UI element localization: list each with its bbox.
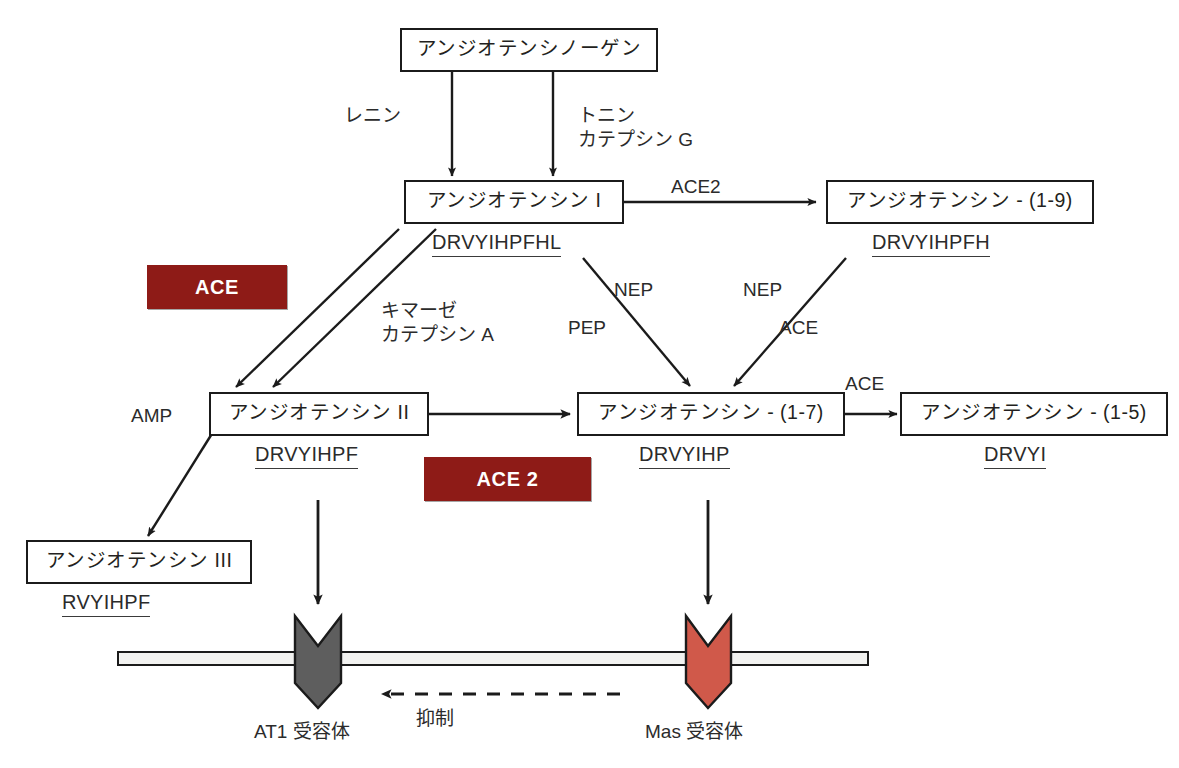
node-angiotensin-1-7-label: アンジオテンシン - (1-7) (598, 403, 824, 423)
label-ace-to-ang1-5: ACE (845, 372, 884, 396)
label-amp: AMP (131, 404, 172, 428)
node-angiotensin-1[interactable]: アンジオテンシン I (404, 180, 624, 224)
sequence-angiotensin-3: RVYIHPF (62, 591, 150, 617)
sequence-angiotensin-1: DRVYIHPFHL (432, 231, 561, 257)
chip-ace2[interactable]: ACE 2 (424, 457, 591, 501)
sequence-angiotensin-1-5: DRVYI (984, 443, 1046, 469)
chip-ace2-label: ACE 2 (477, 468, 539, 491)
node-angiotensin-1-label: アンジオテンシン I (427, 191, 602, 211)
sequence-angiotensin-1-7: DRVYIHP (639, 443, 730, 469)
node-angiotensinogen-label: アンジオテンシノーゲン (417, 39, 642, 59)
label-nep-left: NEP (614, 278, 653, 302)
arrow-amp-to-ang3 (148, 432, 213, 536)
label-renin: レニン (344, 104, 401, 128)
node-angiotensin-1-9-label: アンジオテンシン - (1-9) (847, 191, 1073, 211)
node-angiotensin-1-5-label: アンジオテンシン - (1-5) (921, 403, 1147, 423)
cell-membrane (117, 651, 869, 666)
label-chymase: キマーゼ (381, 299, 494, 323)
label-ace-right: ACE (779, 316, 818, 340)
label-tonin: トニン (578, 104, 693, 128)
label-cathepsin-a: カテプシン A (381, 323, 494, 347)
node-angiotensin-3-label: アンジオテンシン III (46, 551, 233, 571)
chip-ace[interactable]: ACE (147, 265, 287, 309)
sequence-angiotensin-1-9: DRVYIHPFH (872, 231, 990, 257)
node-angiotensin-1-9[interactable]: アンジオテンシン - (1-9) (826, 180, 1094, 224)
node-angiotensin-2[interactable]: アンジオテンシン II (209, 392, 429, 436)
label-tonin-cathepsin-g: トニン カテプシン G (578, 104, 693, 153)
label-at1-receptor: AT1 受容体 (254, 716, 350, 743)
label-cathepsin-g: カテプシン G (578, 128, 693, 152)
label-chymase-cathepsin-a: キマーゼ カテプシン A (381, 299, 494, 348)
label-inhibition: 抑制 (416, 703, 454, 730)
sequence-angiotensin-2: DRVYIHPF (255, 443, 358, 469)
node-angiotensinogen[interactable]: アンジオテンシノーゲン (400, 28, 658, 72)
label-mas-receptor: Mas 受容体 (645, 716, 743, 743)
node-angiotensin-3[interactable]: アンジオテンシン III (26, 540, 252, 584)
pathway-diagram-canvas: アンジオテンシノーゲン アンジオテンシン I DRVYIHPFHL アンジオテン… (0, 0, 1179, 768)
node-angiotensin-1-5[interactable]: アンジオテンシン - (1-5) (900, 392, 1168, 436)
node-angiotensin-2-label: アンジオテンシン II (229, 403, 410, 423)
label-ace2-top: ACE2 (671, 175, 721, 199)
label-nep-right: NEP (743, 278, 782, 302)
chip-ace-label: ACE (195, 276, 239, 299)
label-pep-left: PEP (568, 316, 606, 340)
node-angiotensin-1-7[interactable]: アンジオテンシン - (1-7) (577, 392, 845, 436)
